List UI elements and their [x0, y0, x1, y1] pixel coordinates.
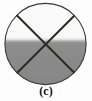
figure-container: (c) [0, 0, 92, 101]
figure-caption: (c) [0, 84, 92, 98]
